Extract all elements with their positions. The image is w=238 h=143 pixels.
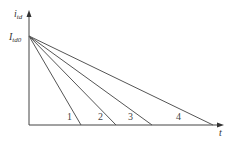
y-axis-arrow-icon <box>27 10 32 17</box>
line-label-4: 4 <box>176 111 181 122</box>
peak-label: Itd0 <box>8 31 22 44</box>
line-4 <box>29 36 213 125</box>
x-axis-label: t <box>219 127 222 138</box>
line-3 <box>29 36 152 125</box>
discharge-current-diagram: itd Itd0 t 1 2 3 4 <box>0 0 238 143</box>
line-1 <box>29 36 81 125</box>
line-label-1: 1 <box>67 111 72 122</box>
y-axis-label: itd <box>14 8 23 21</box>
line-label-3: 3 <box>128 111 133 122</box>
line-label-2: 2 <box>98 111 103 122</box>
